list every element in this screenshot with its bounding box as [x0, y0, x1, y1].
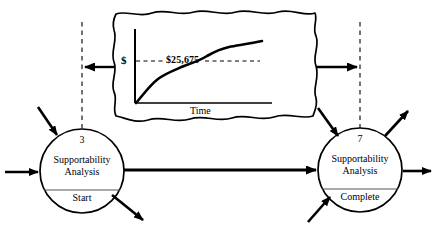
- node-3-status: Start: [42, 193, 122, 204]
- node-3-inbound-arrow-diagonal: [38, 107, 57, 135]
- node-7-status: Complete: [320, 192, 400, 203]
- node-7-inbound-arrow-diagonal: [318, 108, 338, 136]
- node-3-title-line1: Supportability: [32, 155, 132, 166]
- node-7-title-line2: Analysis: [310, 166, 410, 177]
- chart-y-axis-label: $: [121, 54, 127, 66]
- node-7-number: 7: [320, 134, 400, 145]
- diagram-canvas: $ $25,675 Time 3 Supportability Analysis…: [0, 0, 437, 232]
- chart-x-axis-label: Time: [190, 105, 211, 116]
- callout-box: [113, 11, 317, 121]
- node-7-title-line1: Supportability: [310, 154, 410, 165]
- node-7-outbound-arrow-diagonal: [385, 111, 408, 136]
- chart-value-annotation: $25,675: [166, 54, 199, 65]
- node-3-title-line2: Analysis: [32, 167, 132, 178]
- node-3-number: 3: [42, 135, 122, 146]
